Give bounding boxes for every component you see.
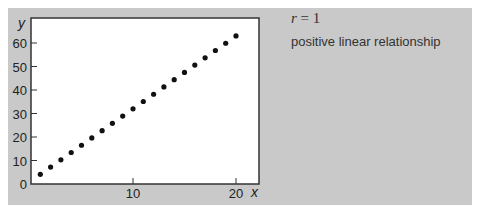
y-tick-label: 40 (13, 83, 27, 98)
data-point (110, 121, 115, 126)
x-axis-label: x (250, 184, 259, 200)
x-tick-label: 20 (229, 186, 243, 201)
data-point (69, 150, 74, 155)
data-point (233, 33, 238, 38)
data-point (223, 41, 228, 46)
r-value: = 1 (297, 10, 320, 26)
data-point (151, 92, 156, 97)
data-point (172, 77, 177, 82)
data-point (100, 128, 105, 133)
x-tick-label: 10 (126, 186, 140, 201)
data-point (58, 157, 63, 162)
data-point (120, 113, 125, 118)
data-point (213, 48, 218, 53)
data-point (38, 172, 43, 177)
data-point (141, 99, 146, 104)
data-point (130, 106, 135, 111)
y-tick-label: 30 (13, 107, 27, 122)
data-point (79, 143, 84, 148)
y-tick-label: 50 (13, 60, 27, 75)
y-tick-label: 60 (13, 36, 27, 51)
correlation-label: r = 1 (291, 10, 320, 27)
data-point (182, 70, 187, 75)
data-point (161, 84, 166, 89)
y-axis-label: y (17, 15, 26, 31)
data-point (48, 164, 53, 169)
scatter-chart: 0102030405060 1020 y x (0, 0, 479, 215)
y-tick-label: 10 (13, 154, 27, 169)
relationship-description: positive linear relationship (291, 34, 441, 49)
y-tick-label: 20 (13, 130, 27, 145)
data-point (203, 55, 208, 60)
y-tick-label: 0 (20, 177, 27, 192)
data-point (89, 135, 94, 140)
data-point (192, 62, 197, 67)
